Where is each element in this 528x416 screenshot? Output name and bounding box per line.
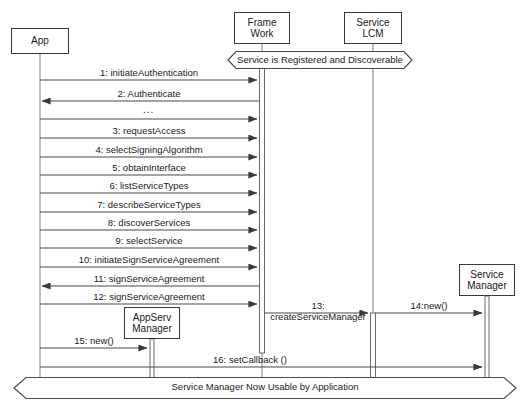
message-label-12: 12: signServiceAgreement	[40, 291, 258, 302]
lifeline-label-service-mgr-line2: Manager	[467, 280, 506, 292]
message-label-8: 8: discoverServices	[40, 217, 258, 228]
message-label-2: 2: Authenticate	[40, 88, 258, 99]
activation-bar-appserv	[150, 339, 154, 380]
lifeline-label-framework-line2: Work	[250, 28, 273, 40]
message-label-9: 9: selectService	[40, 235, 258, 246]
message-label-16: 16: setCallback ()	[160, 354, 340, 365]
lifeline-label-service-lcm-line1: Service	[356, 17, 389, 29]
message-label-13-seq: 13	[311, 300, 322, 311]
lifeline-label-appserv-line2: Manager	[132, 323, 171, 335]
message-label-1: 1: initiateAuthentication	[40, 67, 258, 78]
message-label-13: 13: createServiceManager	[262, 300, 374, 322]
message-label-14: 14:new()	[375, 300, 483, 311]
bottom-banner-label: Service Manager Now Usable by Applicatio…	[14, 381, 516, 392]
message-label-7: 7: describeServiceTypes	[40, 199, 258, 210]
message-label-6: 6: listServiceTypes	[40, 180, 258, 191]
lifeline-label-service-lcm-line2: LCM	[362, 28, 383, 40]
lifeline-box-service-manager[interactable]: Service Manager	[459, 264, 515, 296]
message-label-11: 11: signServiceAgreement	[40, 273, 258, 284]
message-label-3: 3: requestAccess	[40, 125, 258, 136]
message-label-13-body: createServiceManager	[270, 311, 366, 322]
lifeline-label-appserv-line1: AppServ	[133, 312, 171, 324]
lifeline-box-service-lcm[interactable]: Service LCM	[344, 12, 402, 44]
activation-bar-service-mgr	[485, 296, 489, 380]
lifeline-label-framework-line1: Frame	[248, 17, 277, 29]
lifeline-box-framework[interactable]: Frame Work	[234, 12, 290, 44]
message-label-15: 15: new()	[40, 335, 148, 346]
message-label-5: 5: obtainInterface	[40, 162, 258, 173]
top-banner-label: Service is Registered and Discoverable	[228, 54, 412, 65]
message-label-10: 10: initiateSignServiceAgreement	[40, 254, 258, 265]
lifeline-box-app[interactable]: App	[11, 28, 69, 54]
lifeline-label-service-mgr-line1: Service	[470, 269, 503, 281]
lifeline-label-app-line1: App	[31, 35, 49, 47]
ellipsis-marker: ...	[143, 104, 154, 115]
activation-bar-service-lcm	[371, 313, 376, 380]
message-label-4: 4: selectSigningAlgorithm	[40, 144, 258, 155]
